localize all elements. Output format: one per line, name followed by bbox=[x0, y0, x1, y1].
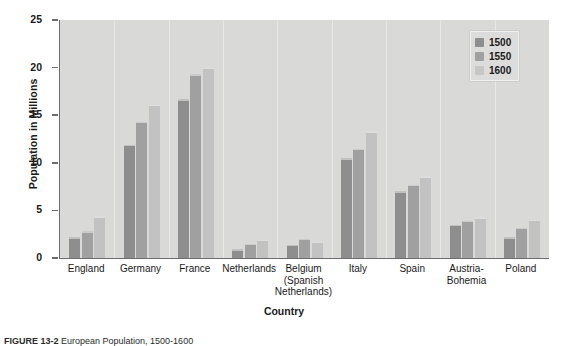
bar bbox=[257, 240, 268, 258]
bar-group bbox=[232, 20, 268, 258]
bar bbox=[312, 242, 323, 258]
bar bbox=[516, 228, 527, 258]
chart-legend: 150015501600 bbox=[470, 31, 519, 81]
category-separator bbox=[223, 20, 224, 258]
bar-group bbox=[178, 20, 214, 258]
category-separator bbox=[440, 20, 441, 258]
legend-item: 1500 bbox=[475, 35, 511, 49]
bar bbox=[353, 149, 364, 258]
bar bbox=[190, 74, 201, 258]
bar-highlight bbox=[82, 231, 93, 233]
bar bbox=[245, 244, 256, 258]
x-tick-label: Poland bbox=[484, 263, 558, 275]
bar bbox=[462, 221, 473, 258]
bar bbox=[366, 131, 377, 258]
bar-group bbox=[69, 20, 105, 258]
bar-highlight bbox=[516, 228, 527, 230]
bar-highlight bbox=[408, 185, 419, 187]
bar-highlight bbox=[190, 74, 201, 76]
bar bbox=[82, 231, 93, 258]
bar-highlight bbox=[136, 122, 147, 124]
bar bbox=[69, 237, 80, 258]
bar-highlight bbox=[462, 221, 473, 223]
bar-group bbox=[395, 20, 431, 258]
bar bbox=[408, 185, 419, 258]
bar-highlight bbox=[366, 131, 377, 133]
y-tick-label: 15 bbox=[2, 108, 42, 120]
bar bbox=[529, 220, 540, 258]
x-axis-title: Country bbox=[0, 305, 568, 317]
bar-highlight bbox=[287, 245, 298, 247]
bar bbox=[94, 216, 105, 258]
legend-label: 1550 bbox=[489, 51, 511, 62]
category-separator bbox=[169, 20, 170, 258]
figure-caption: FIGURE 13-2 European Population, 1500-16… bbox=[4, 336, 524, 346]
bar-highlight bbox=[475, 217, 486, 219]
bar bbox=[178, 99, 189, 258]
y-tick-label: 10 bbox=[2, 156, 42, 168]
figure-caption-label: FIGURE 13-2 bbox=[4, 336, 59, 346]
bar bbox=[450, 225, 461, 258]
bar-group bbox=[287, 20, 323, 258]
bar bbox=[395, 191, 406, 258]
bar-highlight bbox=[312, 242, 323, 244]
bar-highlight bbox=[529, 220, 540, 222]
bar-highlight bbox=[245, 244, 256, 246]
bar-highlight bbox=[450, 225, 461, 227]
bar bbox=[504, 237, 515, 258]
bar-highlight bbox=[94, 216, 105, 218]
bar-group bbox=[341, 20, 377, 258]
bar-highlight bbox=[257, 240, 268, 242]
bar-highlight bbox=[353, 149, 364, 151]
legend-label: 1600 bbox=[489, 65, 511, 76]
bar-highlight bbox=[149, 105, 160, 107]
legend-item: 1550 bbox=[475, 49, 511, 63]
bar bbox=[149, 105, 160, 258]
bar-highlight bbox=[203, 68, 214, 70]
y-tick-label: 20 bbox=[2, 61, 42, 73]
bar bbox=[475, 217, 486, 258]
y-tick-mark bbox=[52, 257, 58, 259]
category-separator bbox=[386, 20, 387, 258]
bar bbox=[299, 239, 310, 258]
category-separator bbox=[277, 20, 278, 258]
bar-highlight bbox=[178, 99, 189, 101]
legend-swatch-1600 bbox=[475, 66, 484, 75]
y-tick-label: 0 bbox=[2, 251, 42, 263]
bar-highlight bbox=[124, 145, 135, 147]
bar bbox=[124, 145, 135, 258]
bar-highlight bbox=[504, 237, 515, 239]
bar bbox=[136, 122, 147, 258]
category-separator bbox=[114, 20, 115, 258]
bar-highlight bbox=[395, 191, 406, 193]
bar-highlight bbox=[69, 237, 80, 239]
y-tick-mark bbox=[52, 19, 58, 21]
bar-highlight bbox=[341, 158, 352, 160]
legend-swatch-1500 bbox=[475, 38, 484, 47]
y-tick-label: 5 bbox=[2, 203, 42, 215]
bar-highlight bbox=[232, 249, 243, 251]
bar-highlight bbox=[299, 239, 310, 241]
y-tick-label: 25 bbox=[2, 13, 42, 25]
y-tick-mark bbox=[52, 210, 58, 212]
bar bbox=[341, 158, 352, 258]
bar bbox=[287, 245, 298, 258]
bar-group bbox=[124, 20, 160, 258]
bar bbox=[203, 68, 214, 258]
bar bbox=[420, 176, 431, 258]
legend-label: 1500 bbox=[489, 37, 511, 48]
y-tick-mark bbox=[52, 114, 58, 116]
bar bbox=[232, 249, 243, 258]
figure-caption-text: European Population, 1500-1600 bbox=[61, 336, 193, 346]
legend-item: 1600 bbox=[475, 63, 511, 77]
bar-highlight bbox=[420, 176, 431, 178]
category-separator bbox=[332, 20, 333, 258]
legend-swatch-1550 bbox=[475, 52, 484, 61]
y-tick-mark bbox=[52, 162, 58, 164]
y-tick-mark bbox=[52, 67, 58, 69]
